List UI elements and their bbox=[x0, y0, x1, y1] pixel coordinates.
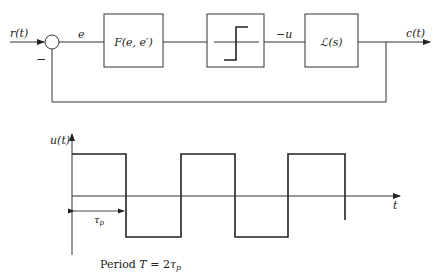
controller-block-label: F(e, e′) bbox=[113, 36, 153, 49]
input-label: r(t) bbox=[10, 27, 28, 40]
y-axis-label: u(t) bbox=[50, 134, 70, 147]
output-label: c(t) bbox=[406, 27, 425, 40]
x-axis-label: t bbox=[393, 199, 398, 212]
plant-block-label: ℒ(s) bbox=[320, 36, 342, 49]
summing-junction bbox=[45, 35, 59, 49]
summing-minus-sign: − bbox=[36, 52, 46, 66]
control-system-diagram: r(t) − e F(e, e′) −u ℒ(s) c(t) u(t bbox=[0, 0, 443, 279]
relay-output-label: −u bbox=[276, 28, 292, 41]
square-wave-plot: u(t) t τp Period T = 2τp bbox=[50, 134, 400, 272]
period-caption: Period T = 2τp bbox=[100, 258, 181, 272]
error-label: e bbox=[78, 28, 85, 41]
block-diagram: r(t) − e F(e, e′) −u ℒ(s) c(t) bbox=[10, 14, 430, 102]
pulse-width-label: τp bbox=[94, 214, 105, 227]
